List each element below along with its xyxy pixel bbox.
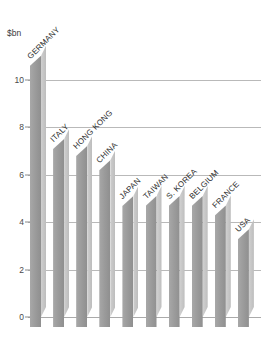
y-axis-tick-label: 0: [6, 312, 24, 322]
bar-side-face: [157, 186, 162, 317]
gridline: [28, 80, 261, 81]
y-axis-tick-mark: [25, 269, 30, 270]
chart-container: $bn 0246810 GERMANYITALYHONG KONGCHINAJA…: [0, 0, 265, 358]
bar-front-face: [76, 146, 87, 327]
bar-front-face: [99, 160, 110, 327]
bar-front-face: [169, 196, 180, 327]
bar-side-face: [180, 186, 185, 317]
bar-front-face: [122, 196, 133, 327]
bar-front-face: [30, 56, 41, 327]
y-axis-tick-mark: [25, 174, 30, 175]
bar-front-face: [192, 196, 203, 327]
category-label: CHINA: [95, 141, 120, 166]
y-axis-tick-label: 10: [6, 75, 24, 85]
bar-side-face: [87, 136, 92, 317]
y-axis-tick-label: 8: [6, 122, 24, 132]
y-axis-tick-label: 4: [6, 217, 24, 227]
category-label: TAIWAN: [141, 172, 170, 201]
plot-area: 0246810 GERMANYITALYHONG KONGCHINAJAPANT…: [0, 0, 265, 358]
y-axis-tick-label: 6: [6, 170, 24, 180]
bar-front-face: [215, 205, 226, 327]
bar-side-face: [226, 195, 231, 317]
y-axis-tick-mark: [25, 79, 30, 80]
bar-side-face: [64, 129, 69, 317]
y-axis-tick-mark: [25, 317, 30, 318]
y-axis-tick-label: 2: [6, 265, 24, 275]
bar-side-face: [110, 150, 115, 317]
y-axis-tick-mark: [25, 127, 30, 128]
bar-front-face: [146, 196, 157, 327]
category-label: JAPAN: [118, 176, 143, 201]
bar-front-face: [238, 229, 249, 327]
bar-side-face: [249, 219, 254, 317]
bar-side-face: [133, 186, 138, 317]
bar-side-face: [203, 186, 208, 317]
bar-front-face: [53, 139, 64, 327]
y-axis-tick-mark: [25, 222, 30, 223]
bar-side-face: [41, 46, 46, 317]
